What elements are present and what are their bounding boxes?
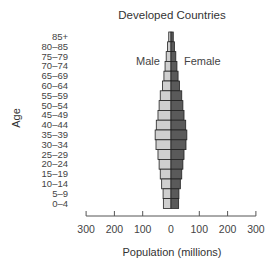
female-bar (171, 42, 174, 52)
female-bar (171, 32, 173, 42)
x-axis-label: Population (millions) (0, 246, 278, 258)
x-tick-label: 100 (191, 223, 209, 235)
male-bar (166, 52, 171, 62)
x-tick-label: 200 (106, 223, 124, 235)
x-tick-label: 300 (77, 223, 95, 235)
female-bar (171, 71, 178, 81)
female-bar (171, 189, 179, 199)
male-bar (162, 179, 171, 189)
female-bar (171, 140, 186, 150)
female-bar (171, 150, 184, 160)
female-bar (171, 52, 176, 62)
male-bar (165, 61, 171, 71)
female-bar (171, 169, 182, 179)
male-bar (163, 81, 171, 91)
female-bar (171, 159, 183, 169)
male-bar (155, 130, 171, 140)
male-bar (156, 140, 171, 150)
x-tick-label: 100 (134, 223, 152, 235)
female-bar (171, 91, 182, 101)
male-bar (159, 101, 171, 111)
male-bar (156, 120, 171, 130)
female-bar (171, 110, 184, 120)
male-bar (168, 42, 171, 52)
female-bar (171, 120, 186, 130)
x-tick-label: 0 (168, 223, 174, 235)
male-bar (164, 71, 171, 81)
x-tick-label: 300 (247, 223, 265, 235)
x-tick-label: 200 (219, 223, 237, 235)
male-bar (158, 110, 171, 120)
male-bar (160, 91, 171, 101)
x-tick-labels: 3002001000100200300 (0, 223, 278, 237)
female-bar (171, 61, 177, 71)
male-bar (158, 150, 171, 160)
male-bar (160, 169, 171, 179)
female-bar (171, 101, 183, 111)
female-bar (171, 130, 187, 140)
male-bar (163, 189, 171, 199)
male-bar (163, 199, 171, 209)
male-bar (159, 159, 171, 169)
female-bar (171, 179, 180, 189)
female-bar (171, 199, 179, 209)
female-bar (171, 81, 179, 91)
